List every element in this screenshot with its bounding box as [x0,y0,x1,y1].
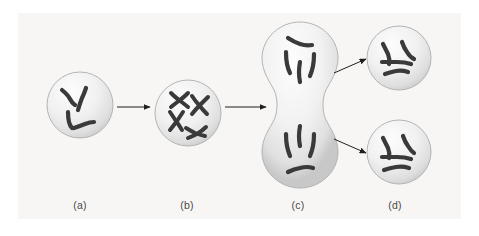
stage-label-a: (a) [60,199,100,211]
chromosome [299,126,300,146]
cell-c-membrane [262,22,338,188]
cell-c [262,22,338,188]
cell-d-bottom-membrane [367,120,431,184]
chromosome [299,62,300,82]
stage-label-d: (d) [375,199,415,211]
cell-b [155,80,221,146]
arrow-c-to-d-bottom [334,139,366,153]
chromosome [382,62,411,64]
arrow-c-to-d-top [334,59,366,73]
figure-root: (a) (b) (c) (d) [0,0,479,236]
chromosome [382,157,411,159]
cell-a [47,72,113,138]
cell-d-bottom [367,120,431,184]
cell-d-top-membrane [367,26,431,90]
cell-d-top [367,26,431,90]
stage-label-b: (b) [167,199,207,211]
stage-label-c: (c) [278,199,318,211]
